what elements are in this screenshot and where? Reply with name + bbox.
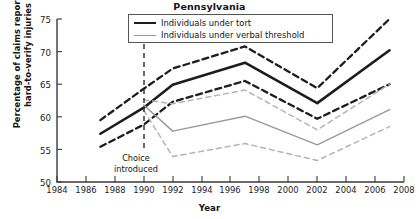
legend-label-verbal-threshold: Individuals under verbal threshold — [161, 30, 304, 40]
series-line — [144, 110, 390, 160]
annotation-line2: introduced — [98, 164, 174, 175]
y-tick-marks — [57, 19, 62, 182]
series-line — [144, 105, 390, 145]
legend-swatch-tort-icon — [134, 22, 156, 24]
choice-introduced-annotation: Choice introduced — [98, 153, 174, 174]
chart-figure: Pennsylvania Percentage of claims report… — [0, 0, 419, 219]
annotation-line1: Choice — [98, 153, 174, 164]
legend-item-tort: Individuals under tort — [134, 17, 328, 29]
legend-item-verbal-threshold: Individuals under verbal threshold — [134, 29, 328, 41]
legend-label-tort: Individuals under tort — [161, 18, 251, 28]
x-axis-label: Year — [0, 203, 419, 213]
x-tick-marks — [57, 176, 404, 182]
chart-legend: Individuals under tort Individuals under… — [128, 14, 333, 43]
legend-swatch-verbal-threshold-icon — [134, 35, 156, 36]
